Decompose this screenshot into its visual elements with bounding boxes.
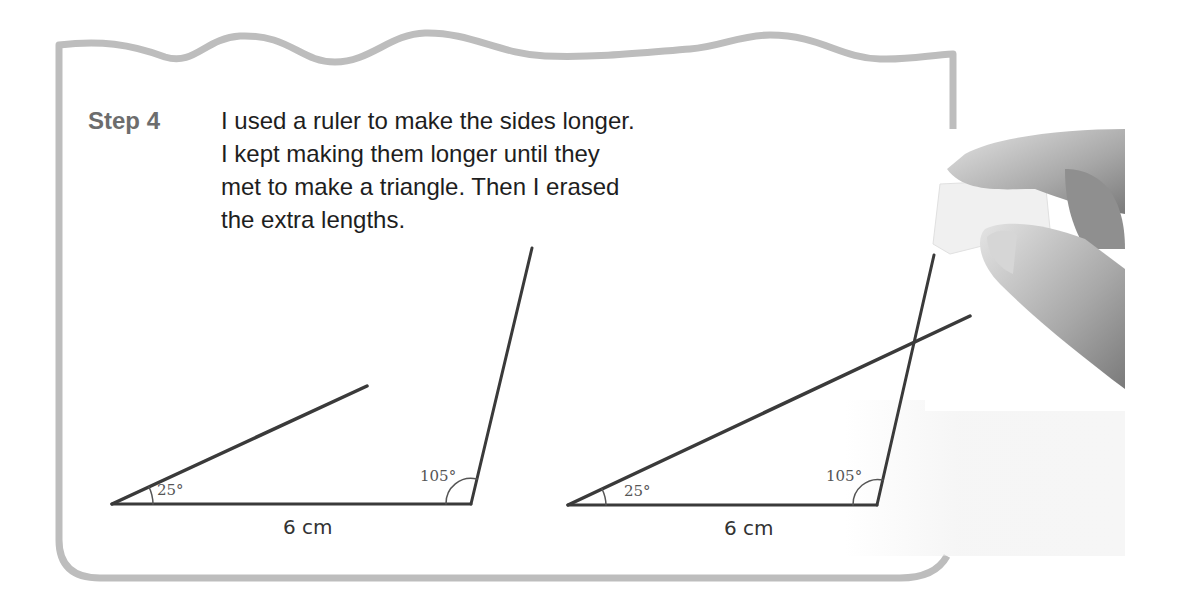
diagram-after	[568, 255, 970, 505]
angle-label-25: 25°	[157, 481, 184, 499]
base-length-label: 6 cm	[283, 515, 333, 539]
angle-label-105: 105°	[420, 467, 456, 485]
angle-label-105: 105°	[826, 467, 862, 485]
angle-label-25: 25°	[624, 482, 651, 500]
base-length-label: 6 cm	[724, 516, 774, 540]
diagram-before	[112, 248, 532, 504]
triangle-diagrams	[0, 0, 1186, 595]
